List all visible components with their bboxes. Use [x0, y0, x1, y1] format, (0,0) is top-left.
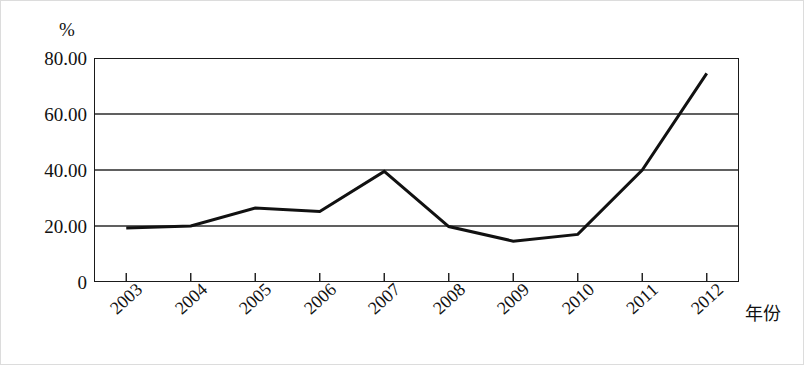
- x-axis-tick-labels: 2003200420052006200720082009201020112012: [94, 282, 739, 362]
- chart-figure: % 020.0040.0060.0080.00 2003200420052006…: [0, 0, 804, 365]
- y-tick-label: 80.00: [3, 49, 87, 68]
- x-tick-label: 2006: [300, 280, 339, 317]
- x-axis-title: 年份: [745, 299, 781, 325]
- x-tick-label: 2005: [236, 280, 275, 317]
- x-tick-label: 2012: [687, 280, 726, 317]
- y-tick-label: 20.00: [3, 217, 87, 236]
- x-tick-label: 2010: [558, 280, 597, 317]
- y-axis-tick-labels: 020.0040.0060.0080.00: [1, 1, 87, 365]
- x-tick-label: 2003: [107, 280, 146, 317]
- plot-frame-border: [94, 58, 739, 282]
- x-tick-label: 2007: [365, 280, 404, 317]
- x-tick-label: 2009: [494, 280, 533, 317]
- plot-area: [94, 58, 739, 282]
- y-tick-label: 0: [3, 273, 87, 292]
- x-tick-label: 2004: [171, 280, 210, 317]
- x-tick-label: 2008: [429, 280, 468, 317]
- y-tick-label: 60.00: [3, 105, 87, 124]
- y-tick-label: 40.00: [3, 161, 87, 180]
- x-tick-label: 2011: [623, 280, 661, 317]
